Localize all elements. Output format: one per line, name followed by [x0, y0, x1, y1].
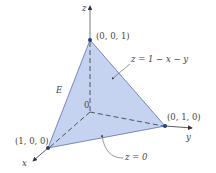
y-axis-label: y: [185, 132, 191, 142]
tetrahedron-diagram: z x y 0 E (0, 0, 1) (1, 0, 0) (0, 1, 0) …: [0, 0, 216, 173]
origin-label: 0: [84, 100, 89, 110]
vertex-x-label: (1, 0, 0): [15, 136, 49, 146]
vertex-x: [46, 146, 50, 150]
region-label: E: [55, 85, 63, 95]
y-axis: [165, 126, 192, 128]
top-plane-label: z = 1 − x − y: [130, 54, 188, 64]
x-axis-label: x: [22, 158, 27, 168]
vertex-apex: [88, 38, 92, 42]
vertex-y-label: (0, 1, 0): [167, 112, 201, 122]
x-axis: [33, 148, 48, 161]
bottom-plane-label: z = 0: [124, 152, 148, 162]
vertex-apex-label: (0, 0, 1): [96, 31, 130, 41]
vertex-y: [163, 124, 167, 128]
leader-bottom-plane: [102, 135, 123, 158]
z-axis-label: z: [81, 3, 87, 13]
